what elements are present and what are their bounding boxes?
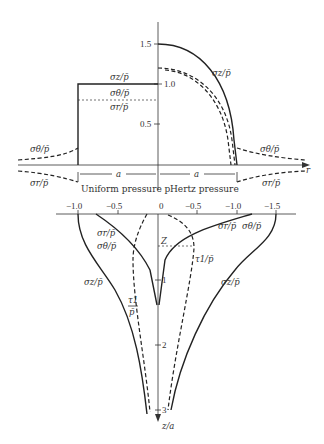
uniform-sigma-z-label: σz/p̄	[110, 72, 129, 82]
left-tau1-denominator: p̄	[129, 307, 135, 317]
right-sigma-z-label: σz/p̄	[221, 277, 240, 287]
y-tick-0.5: 0.5	[140, 119, 152, 129]
x-tick-right-0.5: −0.5	[185, 201, 202, 211]
stress-distribution-diagram: r 1.5 1.0 0.5 σz/p̄ σθ/p̄ σr/p̄ σz/p̄ σθ…	[0, 0, 324, 444]
hertz-sigma-z-curve	[158, 44, 237, 165]
outer-left-sigma-theta-label: σθ/p̄	[30, 144, 50, 154]
dimension-right-label: a	[194, 169, 199, 179]
hertz-sigma-z-label: σz/p̄	[212, 68, 231, 78]
right-sigma-z-curve	[171, 214, 276, 410]
y-tick-1.5: 1.5	[140, 39, 152, 49]
right-sigma-theta-label: σθ/p̄	[242, 221, 262, 231]
left-sigma-r-label: σr/p̄	[97, 228, 116, 238]
bottom-plot: z/a −1.0 −0.5 0 −0.5 −1.0 −1.5 1 2 3 σr/…	[56, 201, 296, 431]
outer-right-sigma-r-label: σr/p̄	[262, 178, 281, 188]
r-axis-label: r	[306, 165, 311, 175]
uniform-sigma-theta-label: σθ/p̄	[110, 88, 130, 98]
hertz-pressure-label: Hertz pressure	[170, 184, 239, 194]
left-sigma-z-label: σz/p̄	[84, 277, 103, 287]
right-sigma-r-label: σr/p̄	[218, 221, 237, 231]
right-tau1-curve	[168, 215, 194, 410]
z-marker-label: Z	[160, 236, 168, 246]
z-tick-2: 2	[162, 340, 167, 350]
outer-right-sigma-theta-label: σθ/p̄	[260, 144, 280, 154]
z-axis-arrow-icon	[155, 414, 161, 422]
x-tick-right-1.0: −1.0	[225, 201, 242, 211]
outer-left-sigma-r-label: σr/p̄	[30, 178, 49, 188]
left-tau1-curve	[133, 214, 150, 412]
top-plot: r 1.5 1.0 0.5 σz/p̄ σθ/p̄ σr/p̄ σz/p̄ σθ…	[18, 22, 311, 194]
right-tau1-label: τ1/p̄	[195, 254, 214, 264]
y-tick-1.0: 1.0	[164, 79, 176, 89]
x-tick-right-1.5: −1.5	[264, 201, 281, 211]
uniform-pressure-label: Uniform pressure p	[81, 184, 171, 194]
uniform-sigma-r-label: σr/p̄	[110, 102, 129, 112]
z-axis-label: z/a	[161, 421, 174, 431]
x-tick-0: 0	[159, 201, 164, 211]
left-tau1-numerator: τ1	[128, 295, 138, 305]
diagram-svg: r 1.5 1.0 0.5 σz/p̄ σθ/p̄ σr/p̄ σz/p̄ σθ…	[0, 0, 324, 444]
x-tick-left-1.0: −1.0	[66, 201, 83, 211]
dimension-left-label: a	[116, 169, 121, 179]
x-tick-left-0.5: −0.5	[106, 201, 123, 211]
left-sigma-theta-label: σθ/p̄	[97, 241, 117, 251]
z-tick-3: 3	[162, 405, 167, 415]
